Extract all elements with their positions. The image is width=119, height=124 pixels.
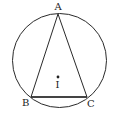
label-a: A: [54, 1, 63, 12]
point-i-dot: [57, 76, 60, 79]
label-c: C: [87, 98, 95, 109]
label-i: I: [56, 79, 60, 90]
geometry-diagram: A B C I: [0, 0, 119, 124]
label-b: B: [22, 97, 29, 108]
circumcircle: [13, 14, 107, 108]
